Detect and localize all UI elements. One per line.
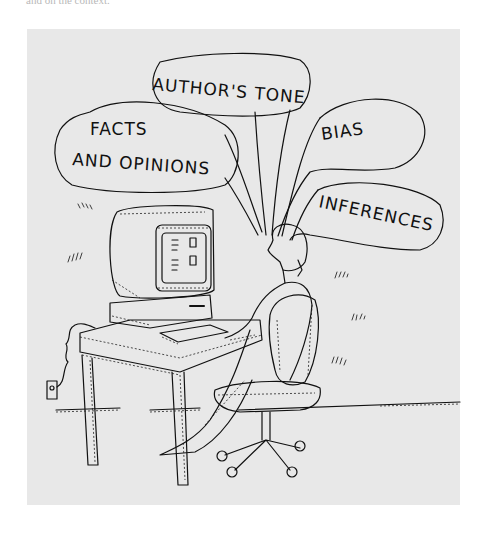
wall-outlet <box>47 324 95 399</box>
computer-base <box>110 295 212 328</box>
office-chair <box>214 295 320 477</box>
bubble-inferences: INFERENCES <box>290 183 443 250</box>
bubble-label-facts: FACTS <box>90 119 148 139</box>
floor-line <box>56 402 460 412</box>
bubble-label-bias: BIAS <box>320 118 365 144</box>
keyboard <box>160 325 228 344</box>
bubble-label-and-opinions: AND OPINIONS <box>72 149 211 179</box>
bubble-label-authors-tone: AUTHOR'S TONE <box>152 74 307 107</box>
bubble-label-inferences: INFERENCES <box>317 191 436 235</box>
bubble-facts-opinions: FACTS AND OPINIONS <box>55 102 262 235</box>
computer-monitor <box>110 206 214 298</box>
person <box>160 224 312 455</box>
cartoon-illustration: FACTS AND OPINIONS AUTHOR'S TONE BIAS IN… <box>0 0 483 533</box>
bubble-authors-tone: AUTHOR'S TONE <box>152 53 311 235</box>
desk <box>80 320 262 485</box>
wall-texture-marks <box>68 203 365 365</box>
